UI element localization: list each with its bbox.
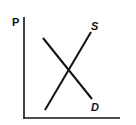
supply-demand-diagram: P S D — [0, 0, 136, 125]
demand-label: D — [91, 101, 99, 113]
supply-curve — [45, 32, 91, 110]
demand-curve — [43, 38, 92, 99]
supply-label: S — [91, 20, 99, 32]
y-axis-label: P — [12, 16, 19, 28]
